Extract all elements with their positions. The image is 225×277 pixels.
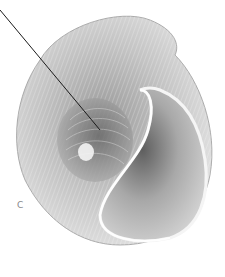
shell-illustration	[0, 0, 225, 277]
panel-label: C	[17, 200, 23, 210]
shell-drawing	[0, 0, 225, 277]
columella-highlight	[78, 143, 94, 161]
umbilicus	[57, 98, 133, 182]
